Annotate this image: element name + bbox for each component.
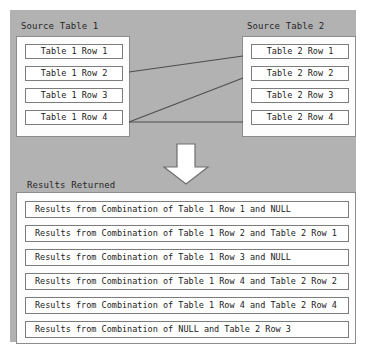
source-table-2-row: Table 2 Row 2 <box>251 66 349 81</box>
source-table-1-row: Table 1 Row 2 <box>25 66 123 81</box>
source-table-2-row: Table 2 Row 3 <box>251 88 349 103</box>
source-table-2-title: Source Table 2 <box>247 20 324 32</box>
source-table-2-panel: Table 2 Row 1 Table 2 Row 2 Table 2 Row … <box>242 36 356 137</box>
source-table-2-row: Table 2 Row 1 <box>251 44 349 59</box>
source-table-1-row: Table 1 Row 3 <box>25 88 123 103</box>
source-table-1-title: Source Table 1 <box>21 20 98 32</box>
results-returned-panel: Results from Combination of Table 1 Row … <box>16 192 356 344</box>
source-table-1-panel: Table 1 Row 1 Table 1 Row 2 Table 1 Row … <box>16 36 130 137</box>
result-row: Results from Combination of Table 1 Row … <box>25 201 349 218</box>
results-returned-title: Results Returned <box>27 179 115 191</box>
result-row: Results from Combination of NULL and Tab… <box>25 321 349 338</box>
source-table-1-row: Table 1 Row 1 <box>25 44 123 59</box>
join-diagram-canvas: Source Table 1 Table 1 Row 1 Table 1 Row… <box>0 0 366 352</box>
result-row: Results from Combination of Table 1 Row … <box>25 273 349 290</box>
result-row: Results from Combination of Table 1 Row … <box>25 249 349 266</box>
source-table-1-row: Table 1 Row 4 <box>25 110 123 125</box>
source-table-2-row: Table 2 Row 4 <box>251 110 349 125</box>
result-row: Results from Combination of Table 1 Row … <box>25 225 349 242</box>
down-arrow-icon <box>161 143 211 185</box>
result-row: Results from Combination of Table 1 Row … <box>25 297 349 314</box>
